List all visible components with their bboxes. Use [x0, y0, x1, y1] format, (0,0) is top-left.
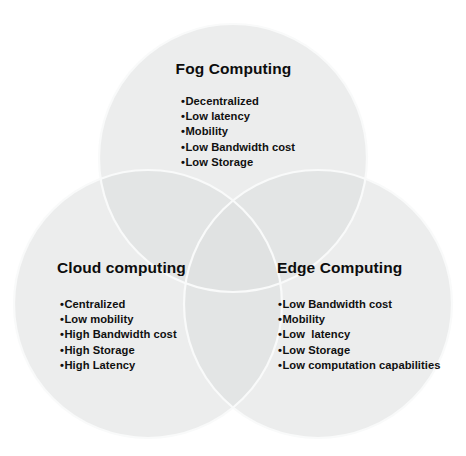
edge-bullet-item: Low latency: [278, 327, 466, 342]
fog-bullet-item: Decentralized: [181, 94, 466, 109]
venn-section-edge: Edge Computing Low Bandwidth cost Mobili…: [277, 259, 466, 373]
edge-bullet-item: Low computation capabilities: [278, 358, 466, 373]
edge-bullet-item: Mobility: [278, 312, 466, 327]
fog-bullet-item: Low latency: [181, 109, 466, 124]
fog-bullet-item: Low Bandwidth cost: [181, 140, 466, 155]
cloud-bullet-list: Centralized Low mobility High Bandwidth …: [57, 297, 247, 373]
edge-title: Edge Computing: [277, 259, 466, 277]
venn-diagram-canvas: Fog Computing Decentralized Low latency …: [0, 0, 466, 456]
cloud-bullet-item: High Bandwidth cost: [60, 327, 247, 342]
fog-bullet-item: Low Storage: [181, 155, 466, 170]
fog-bullet-list: Decentralized Low latency Mobility Low B…: [0, 94, 466, 170]
cloud-bullet-item: High Storage: [60, 343, 247, 358]
venn-section-cloud: Cloud computing Centralized Low mobility…: [57, 259, 247, 373]
fog-title: Fog Computing: [1, 60, 466, 78]
fog-bullet-item: Mobility: [181, 124, 466, 139]
cloud-title: Cloud computing: [57, 259, 247, 277]
edge-bullet-item: Low Bandwidth cost: [278, 297, 466, 312]
cloud-bullet-item: Low mobility: [60, 312, 247, 327]
cloud-bullet-item: High Latency: [60, 358, 247, 373]
venn-section-fog: Fog Computing Decentralized Low latency …: [0, 60, 466, 170]
cloud-bullet-item: Centralized: [60, 297, 247, 312]
edge-bullet-item: Low Storage: [278, 343, 466, 358]
edge-bullet-list: Low Bandwidth cost Mobility Low latency …: [277, 297, 466, 373]
